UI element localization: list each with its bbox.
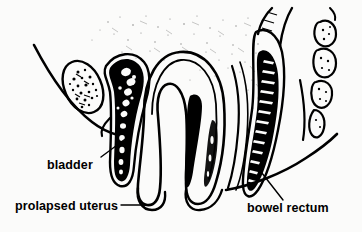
pubic-bone [63, 61, 104, 113]
prolapsed-uterus-organ [138, 52, 225, 210]
rectum-organ [243, 8, 292, 196]
label-prolapsed-uterus: prolapsed uterus [15, 199, 118, 213]
label-bowel-rectum: bowel rectum [247, 201, 329, 215]
bladder-organ [101, 54, 149, 186]
coccyx [309, 8, 336, 137]
pelvic-prolapse-illustration: bladder prolapsed uterus bowel rectum [0, 0, 362, 232]
label-bladder: bladder [47, 158, 93, 172]
